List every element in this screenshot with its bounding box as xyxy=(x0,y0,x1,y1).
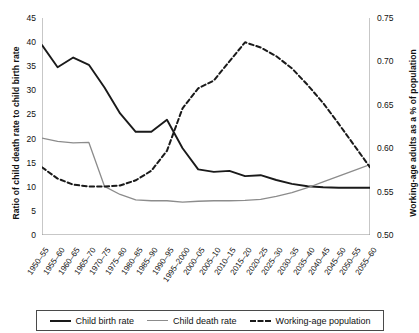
legend-swatch-icon-1 xyxy=(147,320,168,321)
left-tick-25: 25 xyxy=(12,109,36,119)
legend-label-2: Working-age population xyxy=(276,316,371,326)
legend-label-1: Child death rate xyxy=(173,316,237,326)
left-tick-15: 15 xyxy=(12,158,36,168)
chart-figure: Ratio of child death rate to child birth… xyxy=(0,0,419,333)
series-line-0 xyxy=(42,45,370,188)
right-tick-0.50: 0.50 xyxy=(377,230,405,240)
left-tick-5: 5 xyxy=(12,206,36,216)
right-tick-0.75: 0.75 xyxy=(377,13,405,23)
plot-area xyxy=(42,18,370,235)
chart-svg xyxy=(42,18,370,235)
left-tick-10: 10 xyxy=(12,182,36,192)
right-tick-0.70: 0.70 xyxy=(377,56,405,66)
legend-label-0: Child birth rate xyxy=(76,316,135,326)
left-tick-35: 35 xyxy=(12,61,36,71)
left-tick-20: 20 xyxy=(12,134,36,144)
series-line-2 xyxy=(42,42,370,186)
legend-item-2[interactable]: Working-age population xyxy=(250,316,371,326)
left-tick-45: 45 xyxy=(12,13,36,23)
legend-item-0[interactable]: Child birth rate xyxy=(50,316,135,326)
left-tick-0: 0 xyxy=(12,230,36,240)
right-tick-0.55: 0.55 xyxy=(377,187,405,197)
right-tick-0.60: 0.60 xyxy=(377,143,405,153)
left-tick-40: 40 xyxy=(12,37,36,47)
right-tick-0.65: 0.65 xyxy=(377,100,405,110)
legend-swatch-icon-2 xyxy=(250,320,271,322)
legend-item-1[interactable]: Child death rate xyxy=(147,316,237,326)
chart-legend: Child birth rateChild death rateWorking-… xyxy=(36,310,384,331)
right-axis-title: Working-age adults as a % of population xyxy=(408,33,418,233)
legend-swatch-icon-0 xyxy=(50,320,71,322)
left-tick-30: 30 xyxy=(12,85,36,95)
